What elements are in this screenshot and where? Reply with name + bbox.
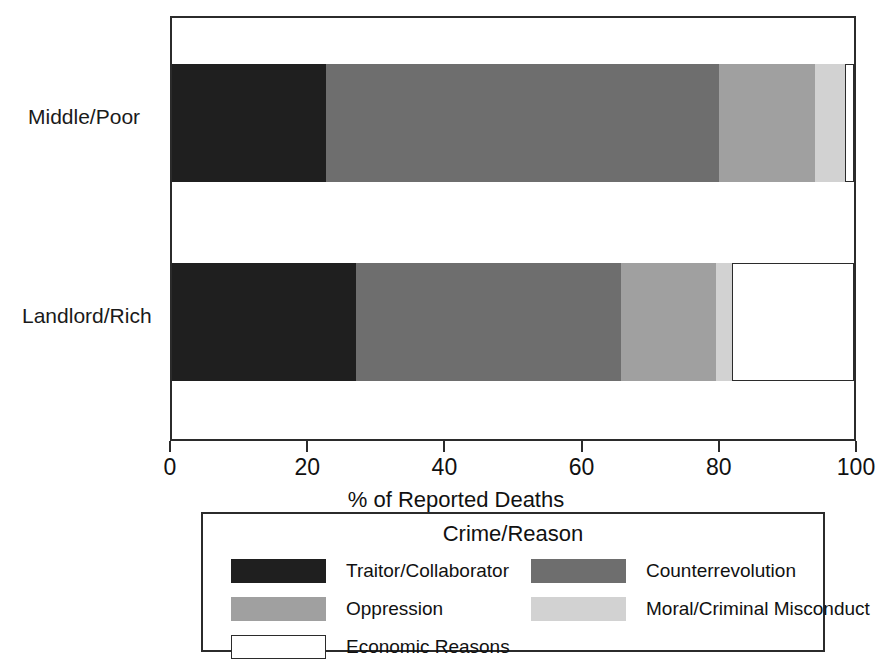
x-axis-tick-label: 40 [432, 454, 458, 481]
x-axis-tick-label: 80 [706, 454, 732, 481]
chart-container: Middle/Poor Landlord/Rich 020406080100 %… [0, 0, 894, 500]
x-axis-tick-mark [718, 441, 720, 452]
legend-entry-label: Moral/Criminal Misconduct [646, 598, 870, 620]
bar-segment [356, 263, 621, 381]
legend-swatch-icon [531, 597, 626, 621]
legend-entry[interactable]: Counterrevolution [531, 554, 831, 588]
x-axis-title-text: % of Reported Deaths [348, 487, 564, 512]
x-axis-tick-label: 60 [569, 454, 595, 481]
y-axis-label-landlord-rich: Landlord/Rich [22, 304, 152, 328]
x-axis-ticks: 020406080100 [170, 441, 856, 453]
x-axis-tick-mark [169, 441, 171, 452]
bar-segment [326, 64, 719, 182]
stacked-bar-middle-poor [172, 64, 854, 182]
legend-entry[interactable]: Oppression [231, 592, 531, 626]
bar-segment [621, 263, 716, 381]
bar-segment [845, 64, 854, 182]
x-axis-title: % of Reported Deaths [0, 487, 894, 513]
x-axis-tick-mark [855, 441, 857, 452]
x-axis-tick-mark [306, 441, 308, 452]
legend-entry-label: Counterrevolution [646, 560, 796, 582]
legend-column-right: CounterrevolutionMoral/Criminal Miscondu… [531, 554, 831, 630]
bar-segment [172, 64, 326, 182]
legend-swatch-icon [231, 559, 326, 583]
x-axis-tick-mark [443, 441, 445, 452]
legend-entry[interactable]: Moral/Criminal Misconduct [531, 592, 831, 626]
legend-swatch-icon [231, 635, 326, 659]
legend-box: Crime/Reason Traitor/CollaboratorOppress… [201, 512, 825, 652]
plot-frame [170, 16, 856, 441]
y-axis-label-middle-poor: Middle/Poor [28, 105, 140, 129]
x-axis-tick-label: 0 [164, 454, 177, 481]
legend-entry[interactable]: Traitor/Collaborator [231, 554, 531, 588]
bar-segment [815, 64, 845, 182]
legend-swatch-icon [231, 597, 326, 621]
legend-entry-label: Traitor/Collaborator [346, 560, 509, 582]
legend-swatch-icon [531, 559, 626, 583]
legend-column-left: Traitor/CollaboratorOppressionEconomic R… [231, 554, 531, 668]
legend-entry-label: Oppression [346, 598, 443, 620]
legend-entry[interactable]: Economic Reasons [231, 630, 531, 664]
x-axis-tick-label: 100 [837, 454, 875, 481]
legend-entry-label: Economic Reasons [346, 636, 510, 658]
bar-segment [732, 263, 854, 381]
x-axis-tick-mark [581, 441, 583, 452]
legend-title: Crime/Reason [203, 521, 823, 547]
stacked-bar-landlord-rich [172, 263, 854, 381]
x-axis-tick-label: 20 [294, 454, 320, 481]
bar-segment [719, 64, 815, 182]
bar-segment [716, 263, 732, 381]
bar-segment [172, 263, 356, 381]
